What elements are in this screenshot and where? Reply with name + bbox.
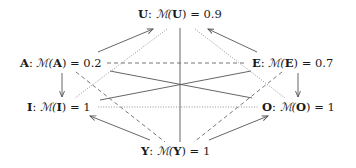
node-u: U: ℳ(U) = 0.9	[138, 7, 222, 21]
node-e-symbol: E	[252, 56, 261, 70]
node-i-value: 1	[83, 100, 90, 114]
node-o-symbol: O	[262, 100, 272, 114]
node-i: I: ℳ(I) = 1	[27, 100, 91, 114]
node-e-value: 0.7	[315, 56, 333, 70]
edge-e-to-u	[208, 29, 257, 52]
edge-y-to-o	[209, 116, 268, 140]
edge-e-i	[100, 71, 251, 100]
node-y-symbol: Y	[141, 144, 149, 158]
edge-a-to-u	[98, 29, 153, 52]
node-y-value: 1	[203, 144, 210, 158]
node-y: Y: ℳ(Y) = 1	[141, 144, 210, 158]
node-u-value: 0.9	[204, 7, 222, 21]
node-o: O: ℳ(O) = 1	[262, 100, 335, 114]
node-o-value: 1	[328, 100, 335, 114]
node-e: E: ℳ(E) = 0.7	[252, 56, 333, 70]
node-a: A: ℳ(A) = 0.2	[20, 56, 102, 70]
node-u-symbol: U	[138, 7, 148, 21]
node-a-value: 0.2	[83, 56, 101, 70]
edges-layer	[0, 0, 356, 168]
node-a-symbol: A	[20, 56, 29, 70]
edge-y-to-i	[90, 116, 150, 140]
opposition-diagram: U: ℳ(U) = 0.9 A: ℳ(A) = 0.2 E: ℳ(E) = 0.…	[0, 0, 356, 168]
